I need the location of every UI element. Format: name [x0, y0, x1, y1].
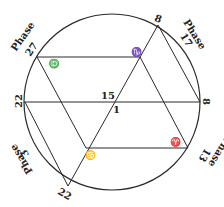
libra-icon: ♎	[49, 58, 60, 69]
diagram-lines	[24, 14, 200, 190]
label-22-left: 22	[13, 94, 24, 108]
center-label-1: 1	[113, 104, 120, 115]
center-label-15: 15	[101, 90, 115, 101]
label-8-right: 8	[201, 98, 212, 105]
phase-label-upper-right: Phase 17	[173, 17, 208, 56]
aries-icon: ♈	[170, 136, 181, 147]
label-8-top: 8	[153, 12, 163, 25]
label-22-bottom: 22	[56, 186, 74, 203]
capricorn-icon: ♑	[131, 46, 142, 57]
cancer-icon: ♋	[85, 150, 96, 161]
phase-diagram: 27 8 8 22 22 15 1 Phase Phase 17 Phase 3…	[0, 0, 224, 207]
